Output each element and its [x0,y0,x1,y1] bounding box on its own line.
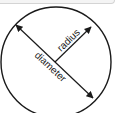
diameter-label: diameter [33,49,69,84]
circle-outline [1,7,111,113]
circle-diagram: radius diameter [0,0,120,113]
circle-figure: radius diameter [0,0,120,113]
